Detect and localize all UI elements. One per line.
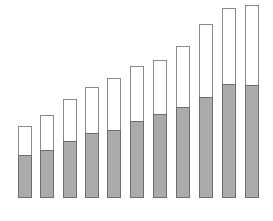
bar-segment-upper — [40, 115, 54, 150]
bar-segment-lower — [176, 107, 190, 198]
bar-segment-lower — [153, 114, 167, 198]
bar-segment-lower — [18, 155, 32, 198]
bar-1 — [18, 126, 32, 198]
bar-segment-upper — [18, 126, 32, 155]
bar-7 — [153, 60, 167, 198]
bar-8 — [176, 46, 190, 198]
bar-segment-upper — [130, 66, 144, 121]
bar-segment-lower — [107, 130, 121, 198]
bar-segment-upper — [153, 60, 167, 114]
bar-segment-upper — [176, 46, 190, 107]
bar-segment-lower — [130, 121, 144, 198]
bar-segment-upper — [107, 78, 121, 130]
bar-segment-lower — [222, 84, 236, 198]
bar-segment-lower — [40, 150, 54, 198]
bar-3 — [63, 99, 77, 198]
bar-9 — [199, 24, 213, 198]
stacked-bar-chart — [0, 0, 273, 221]
bar-10 — [222, 8, 236, 198]
bar-segment-upper — [85, 87, 99, 133]
bar-5 — [107, 78, 121, 198]
bar-6 — [130, 66, 144, 198]
bar-segment-upper — [199, 24, 213, 97]
bar-segment-lower — [63, 141, 77, 198]
bar-segment-lower — [245, 85, 259, 198]
bar-2 — [40, 115, 54, 198]
bar-4 — [85, 87, 99, 198]
bar-segment-lower — [199, 97, 213, 198]
bar-11 — [245, 5, 259, 198]
bar-segment-upper — [63, 99, 77, 141]
bar-segment-upper — [222, 8, 236, 84]
bar-segment-lower — [85, 133, 99, 198]
bar-segment-upper — [245, 5, 259, 85]
